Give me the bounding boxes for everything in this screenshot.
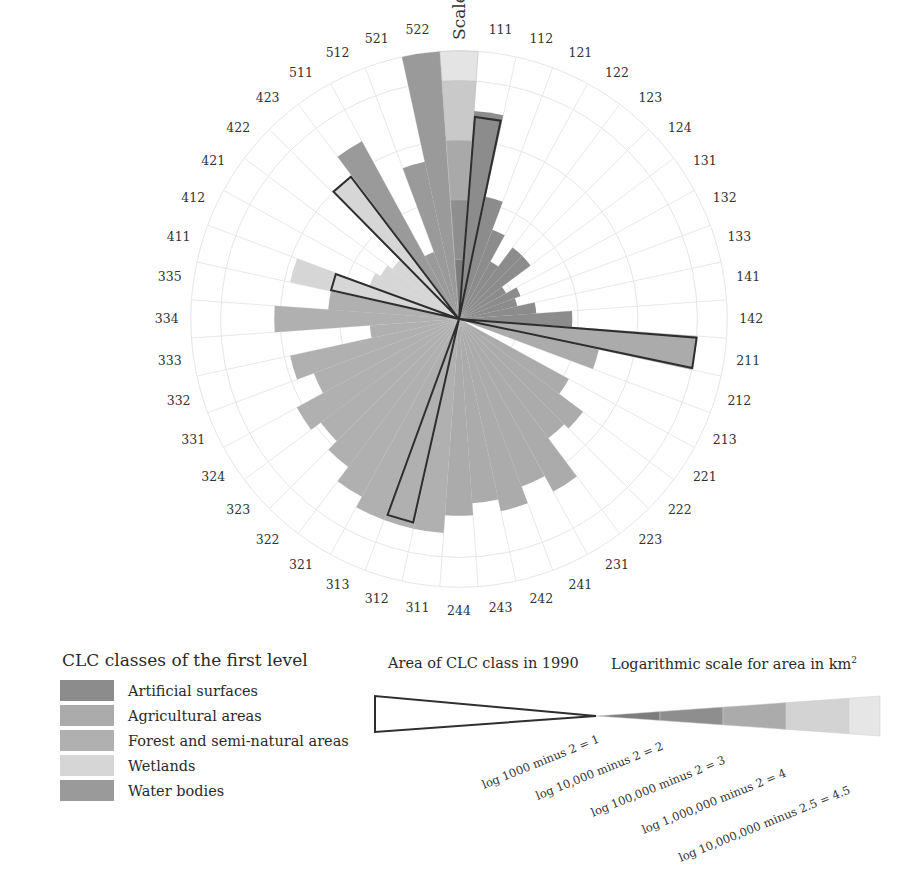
category-label: 335 [158,269,182,284]
category-label: 423 [256,90,280,105]
legend-label: Forest and semi-natural areas [128,733,349,749]
category-label: 213 [713,432,737,447]
legend-label: Agricultural areas [128,708,262,724]
legend-label: Wetlands [128,758,195,774]
category-label: 212 [727,393,751,408]
category-label: 421 [201,153,225,168]
bars [274,51,697,533]
category-label: 222 [668,502,692,517]
category-label: 512 [326,45,350,60]
category-label: 141 [736,269,760,284]
area-1990-glyph [375,696,596,732]
legend-swatch [60,705,114,726]
category-label: 321 [289,557,313,572]
category-label: 142 [739,311,763,326]
legend-swatch [60,780,114,801]
category-label: 221 [693,469,717,484]
category-label: 332 [167,393,191,408]
legend-item-artificial: Artificial surfaces [60,678,349,703]
category-label: 412 [181,190,205,205]
log-scale-title: Logarithmic scale for area in km2 [611,655,857,672]
category-label: 223 [638,532,662,547]
legend-swatch [60,680,114,701]
legend-swatch [60,730,114,751]
category-label: 322 [256,532,280,547]
category-label: 122 [605,65,629,80]
legend-item-forest: Forest and semi-natural areas [60,728,349,753]
category-label: 313 [326,577,350,592]
category-label: 311 [405,600,429,615]
category-label: 243 [489,600,513,615]
log-scale-segment [849,696,880,736]
category-label: 422 [226,120,250,135]
legend-title: CLC classes of the first level [62,650,349,670]
area-legend-title: Area of CLC class in 1990 [388,655,579,671]
category-label: 231 [605,557,629,572]
category-label: 333 [158,353,182,368]
log-scale-segment [723,703,786,730]
category-label: 521 [365,31,389,46]
legend-item-water: Water bodies [60,778,349,803]
log-scale-segment [660,707,723,725]
category-label: 111 [489,22,513,37]
legend-item-wetlands: Wetlands [60,753,349,778]
category-label: 124 [668,120,692,135]
category-label: 244 [447,603,471,618]
category-label: 132 [713,190,737,205]
log-scale-segment [596,711,660,720]
category-label: 133 [727,229,751,244]
category-label: 242 [529,591,553,606]
category-label: 121 [568,45,592,60]
category-label: 511 [289,65,313,80]
category-label: 131 [693,153,717,168]
category-label: 241 [568,577,592,592]
legend-item-agricultural: Agricultural areas [60,703,349,728]
category-label: 324 [201,469,225,484]
category-label: 411 [167,229,191,244]
log-scale-title-text: Logarithmic scale for area in km [611,656,851,672]
category-label: 334 [155,311,179,326]
category-label: 211 [736,353,760,368]
scale-label: Scale [449,0,469,40]
clc-legend: CLC classes of the first level Artificia… [60,650,349,803]
legend-swatch [60,755,114,776]
category-label: 331 [181,432,205,447]
log-scale-tick-label: log 10,000,000 minus 2.5 = 4.5 [677,783,852,865]
category-label: 123 [638,90,662,105]
legend-label: Water bodies [128,783,224,799]
category-label: 312 [365,591,389,606]
category-label: 522 [405,22,429,37]
log-scale-segment [786,698,849,734]
log-scale-title-sup: 2 [851,655,857,665]
category-label: 112 [529,31,553,46]
scale-legend: log 1000 minus 2 = 1log 10,000 minus 2 =… [375,696,880,865]
legend-label: Artificial surfaces [128,683,258,699]
category-label: 323 [226,502,250,517]
